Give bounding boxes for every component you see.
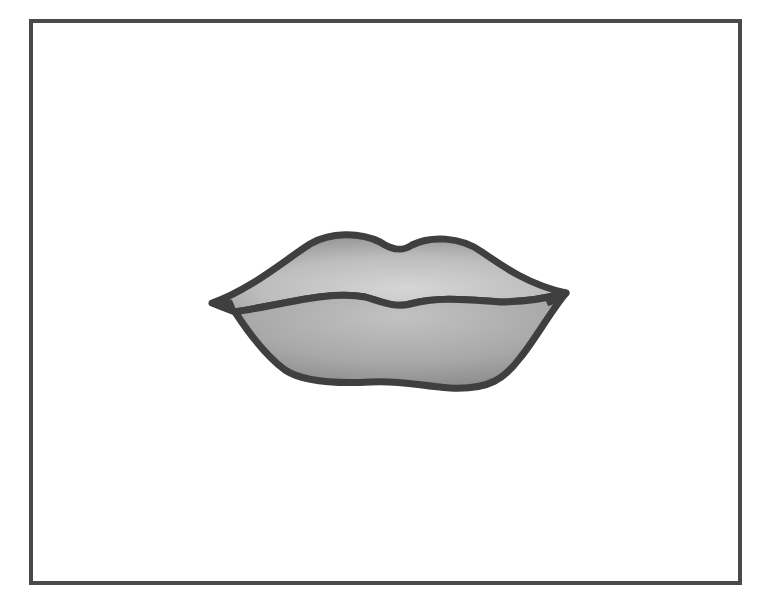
canvas: Cartoon lips bbox=[0, 0, 765, 605]
lips-icon bbox=[0, 0, 765, 605]
lower-lip bbox=[235, 293, 566, 388]
